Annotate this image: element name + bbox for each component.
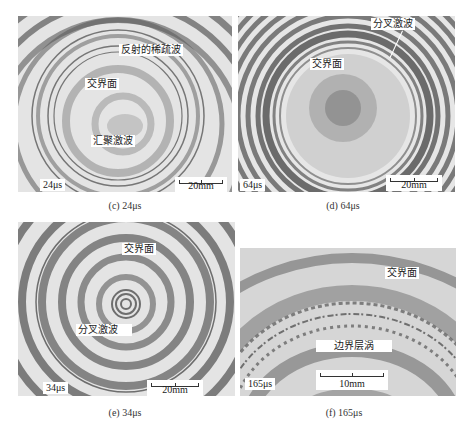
panel-c-image: 反射的稀疏波 交界面 汇聚激波 24μs 20mm [18,16,232,192]
scale-bar: 20mm [386,175,442,191]
caption-c: (c) 24μs [65,200,185,212]
annotation-reflected-rarefaction-wave: 反射的稀疏波 [119,44,183,56]
interferogram-c [18,16,232,192]
panel-f-image: 交界面 边界层涡 165μs 10mm [240,248,456,396]
caption-f: (f) 165μs [284,407,404,419]
panel-e-image: 交界面 分叉激波 34μs 20mm [18,222,235,396]
annotation-interface: 交界面 [310,58,344,70]
time-stamp: 165μs [245,378,275,390]
time-stamp: 24μs [40,179,65,191]
interferogram-d [238,16,455,192]
scale-bar-label: 10mm [316,378,388,390]
annotation-interface: 交界面 [122,243,156,255]
scale-bar: 20mm [175,177,227,192]
annotation-interface: 交界面 [385,267,419,279]
caption-e: (e) 34μs [65,407,185,419]
annotation-boundary-layer-vortex: 边界层涡 [316,340,392,352]
scale-bar-label: 20mm [175,180,227,192]
panel-d-image: 分叉激波 交界面 64μs 20mm [238,16,455,192]
annotation-bifurcated-shock: 分叉激波 [76,324,132,336]
annotation-interface: 交界面 [85,78,119,90]
time-stamp: 64μs [240,179,265,191]
scale-bar-label: 20mm [386,179,442,191]
scale-bar: 20mm [147,380,203,396]
annotation-bifurcated-shock: 分叉激波 [371,18,415,30]
time-stamp: 34μs [43,382,68,394]
scale-bar: 10mm [316,370,388,390]
caption-d: (d) 64μs [283,200,403,212]
scale-bar-label: 20mm [147,384,203,396]
annotation-converging-shock: 汇聚激波 [91,135,135,147]
